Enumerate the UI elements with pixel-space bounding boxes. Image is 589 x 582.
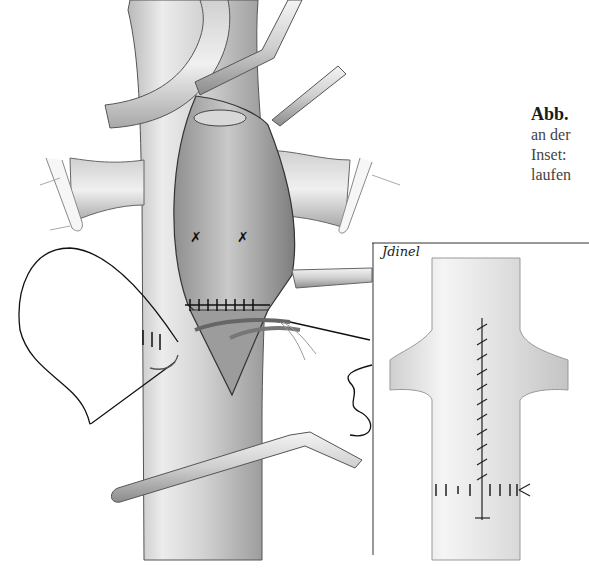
right-branch-vessel [292, 268, 372, 288]
caption-line-3: laufen [531, 165, 589, 185]
surgical-illustration: ✗ ✗ [0, 0, 589, 582]
svg-text:✗: ✗ [237, 229, 249, 245]
surgical-figure: ✗ ✗ [0, 0, 589, 582]
illustrator-signature: Jdinel [382, 244, 420, 259]
svg-text:✗: ✗ [190, 229, 202, 245]
caption-line-2: Inset: [531, 145, 589, 165]
inset-detail [372, 243, 589, 560]
figure-label: Abb. [531, 103, 589, 125]
figure-caption: Abb. an der Inset: laufen [531, 103, 589, 185]
caption-line-1: an der [531, 125, 589, 145]
